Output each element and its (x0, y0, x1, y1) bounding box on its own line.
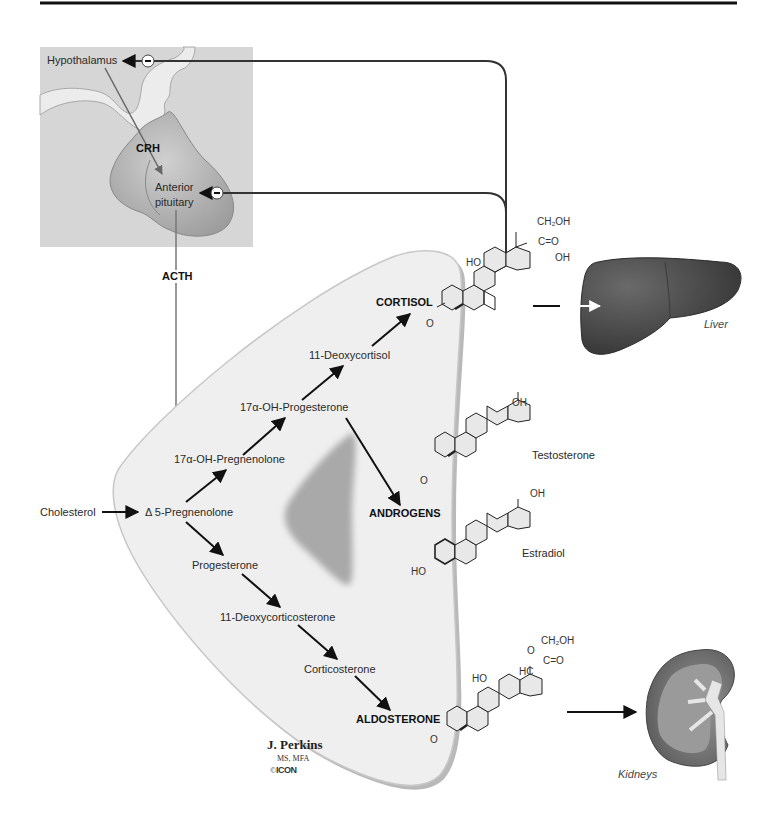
testosterone-label: Testosterone (532, 449, 595, 462)
cortisol-oh: OH (555, 253, 570, 263)
aldosterone-label: ALDOSTERONE (356, 713, 440, 726)
aldosterone-ch2oh: CH₂OH (541, 636, 574, 646)
deoxycorticosterone-label: 11-Deoxycorticosterone (220, 611, 335, 624)
estradiol-oh: OH (530, 489, 545, 499)
progesterone-label: Progesterone (192, 559, 258, 572)
signature-name: J. Perkins (267, 738, 323, 753)
liver-label: Liver (704, 318, 728, 331)
aldosterone-o: O (430, 735, 438, 745)
diagram-canvas (0, 0, 778, 823)
crh-label: CRH (136, 142, 160, 155)
corticosterone-label: Corticosterone (304, 663, 376, 676)
cholesterol-label: Cholesterol (40, 506, 96, 519)
oh-progesterone-label: 17α-OH-Progesterone (240, 401, 348, 414)
cortisol-ho: HO (466, 258, 481, 268)
deoxycortisol-label: 11-Deoxycortisol (309, 349, 390, 362)
cortisol-label: CORTISOL (376, 296, 433, 309)
cortisol-o: O (426, 319, 434, 329)
aldosterone-hc: HC (519, 667, 533, 677)
aldosterone-o-top: O (527, 646, 535, 656)
anterior-pituitary-label-1: Anterior (155, 181, 194, 194)
feedback-line-pituitary (486, 193, 506, 212)
estradiol-label: Estradiol (522, 547, 565, 560)
pregnenolone-label: Δ 5-Pregnenolone (145, 506, 233, 519)
androgens-label: ANDROGENS (369, 507, 441, 520)
kidney-illustration (646, 650, 734, 780)
testosterone-oh: OH (512, 398, 527, 408)
kidneys-label: Kidneys (618, 768, 657, 781)
acth-label: ACTH (162, 270, 193, 283)
anterior-pituitary-label-2: pituitary (155, 196, 194, 209)
oh-pregnenolone-label: 17α-OH-Pregnenolone (174, 453, 285, 466)
hypothalamus-label: Hypothalamus (47, 54, 117, 67)
signature-logo: ©ICON (270, 763, 297, 776)
aldosterone-co: C=O (543, 656, 564, 666)
icon-logo: ICON (276, 765, 297, 775)
testosterone-o: O (420, 476, 428, 486)
estradiol-ho: HO (411, 567, 426, 577)
cortisol-ch2oh: CH₂OH (537, 217, 570, 227)
adrenal-gland (113, 251, 465, 790)
signature-credentials: MS, MFA (277, 754, 309, 763)
liver-illustration (581, 258, 741, 355)
cortisol-co: C=O (538, 237, 559, 247)
aldosterone-ho: HO (472, 674, 487, 684)
